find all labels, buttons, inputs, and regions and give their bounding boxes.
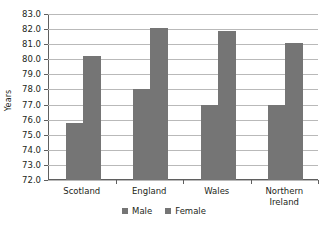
category-label-line: England <box>116 186 184 197</box>
y-tick-label: 82.0 <box>22 25 41 34</box>
category-label: NorthernIreland <box>251 186 319 207</box>
y-axis-title: Years <box>4 79 13 123</box>
bar-male <box>268 105 286 180</box>
bar-female <box>83 56 101 180</box>
x-tick-mark <box>318 180 319 184</box>
y-tick-label: 74.0 <box>22 146 41 155</box>
y-tick-mark <box>44 180 48 181</box>
category-label-line: Ireland <box>251 197 319 208</box>
bar-female <box>285 43 303 180</box>
bar-male <box>201 105 219 180</box>
x-tick-mark <box>251 180 252 184</box>
legend-label: Male <box>132 207 152 216</box>
x-tick-mark <box>116 180 117 184</box>
plot-area: 83.082.081.080.079.078.077.076.075.074.0… <box>48 14 318 180</box>
y-tick-label: 77.0 <box>22 101 41 110</box>
legend-item-male[interactable]: Male <box>122 207 152 216</box>
y-tick-label: 78.0 <box>22 85 41 94</box>
y-tick-label: 75.0 <box>22 131 41 140</box>
y-tick-label: 73.0 <box>22 161 41 170</box>
bar-group <box>116 14 184 180</box>
y-tick-label: 83.0 <box>22 10 41 19</box>
bar-female <box>150 28 168 180</box>
x-tick-mark <box>183 180 184 184</box>
bar-group <box>251 14 319 180</box>
bar-group <box>48 14 116 180</box>
category-label: Scotland <box>48 186 116 197</box>
bar-group <box>183 14 251 180</box>
category-label-line: Northern <box>251 186 319 197</box>
category-label-line: Wales <box>183 186 251 197</box>
legend-label: Female <box>175 207 206 216</box>
category-label: England <box>116 186 184 197</box>
category-label-line: Scotland <box>48 186 116 197</box>
y-tick-label: 81.0 <box>22 40 41 49</box>
bar-male <box>133 89 151 180</box>
y-tick-label: 72.0 <box>22 176 41 185</box>
legend-swatch-icon <box>122 208 128 214</box>
bar-female <box>218 31 236 180</box>
category-label: Wales <box>183 186 251 197</box>
chart-legend: MaleFemale <box>0 207 328 216</box>
y-tick-label: 80.0 <box>22 55 41 64</box>
y-tick-label: 76.0 <box>22 116 41 125</box>
legend-swatch-icon <box>165 208 171 214</box>
y-tick-label: 79.0 <box>22 70 41 79</box>
bar-male <box>66 123 84 180</box>
bar-chart: Years 83.082.081.080.079.078.077.076.075… <box>0 0 328 228</box>
legend-item-female[interactable]: Female <box>165 207 206 216</box>
